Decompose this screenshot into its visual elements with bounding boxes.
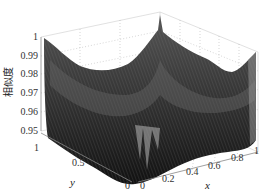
y-axis-label: y bbox=[69, 176, 75, 188]
y-tick: 0 bbox=[125, 180, 130, 191]
z-tick: 1 bbox=[33, 31, 38, 42]
z-axis-label: 相似度 bbox=[2, 67, 14, 97]
surface-plot: 1 0.99 0.98 0.97 0.96 0.95 相似度 1 0.5 0 y… bbox=[0, 0, 264, 196]
z-axis-ticks: 1 0.99 0.98 0.97 0.96 0.95 bbox=[21, 31, 39, 136]
x-tick: 0.2 bbox=[162, 173, 175, 184]
x-axis-label: x bbox=[204, 179, 210, 191]
z-tick: 0.98 bbox=[21, 68, 39, 79]
z-tick: 0.95 bbox=[21, 125, 39, 136]
z-tick: 0.97 bbox=[21, 87, 39, 98]
x-tick: 1 bbox=[254, 145, 259, 156]
z-tick: 0.99 bbox=[21, 50, 39, 61]
y-tick: 1 bbox=[34, 142, 39, 153]
x-tick: 0.6 bbox=[208, 160, 221, 171]
z-tick: 0.96 bbox=[21, 106, 39, 117]
x-tick: 0.8 bbox=[231, 152, 244, 163]
y-tick: 0.5 bbox=[72, 157, 85, 168]
x-tick: 0.4 bbox=[186, 166, 199, 177]
x-tick: 0 bbox=[140, 180, 145, 191]
